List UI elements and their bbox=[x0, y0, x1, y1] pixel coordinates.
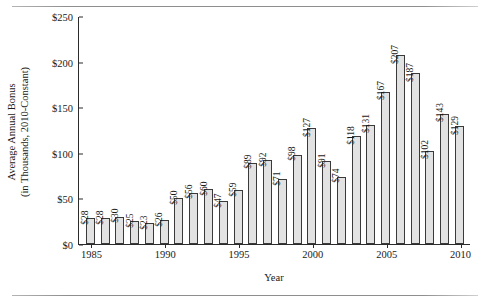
y-axis-tick-label: $200 bbox=[52, 57, 79, 68]
bar-slot: $187 bbox=[408, 17, 423, 244]
bar: $89 bbox=[248, 163, 257, 244]
bar: $71 bbox=[278, 179, 287, 244]
x-axis-tick-label: 2000 bbox=[302, 249, 323, 260]
y-axis-tick-label: $100 bbox=[52, 148, 79, 159]
bar-value-label: $26 bbox=[155, 212, 165, 226]
bar: $59 bbox=[234, 190, 243, 244]
plot-area: $0$50$100$150$200$250 $28$28$30$25$23$26… bbox=[78, 17, 470, 245]
bar-value-label: $56 bbox=[184, 185, 194, 199]
x-axis-tick-label: 1995 bbox=[229, 249, 250, 260]
bar-value-label: $30 bbox=[110, 209, 120, 223]
x-axis-tick-mark bbox=[461, 244, 462, 248]
chart-figure: Average Annual Bonus (in Thousands, 2010… bbox=[0, 0, 490, 302]
x-axis-tick-mark bbox=[313, 244, 314, 248]
bar-value-label: $127 bbox=[302, 118, 312, 137]
bar-slot: $60 bbox=[201, 17, 216, 244]
bar: $143 bbox=[440, 114, 449, 244]
bar-value-label: $74 bbox=[332, 168, 342, 182]
bar-value-label: $187 bbox=[406, 63, 416, 82]
bar-value-label: $47 bbox=[214, 193, 224, 207]
bar: $26 bbox=[160, 220, 169, 244]
bar-slot: $207 bbox=[393, 17, 408, 244]
x-axis-tick-mark bbox=[239, 244, 240, 248]
bar-value-label: $167 bbox=[376, 81, 386, 100]
bar-slot: $30 bbox=[113, 17, 128, 244]
bar: $167 bbox=[381, 92, 390, 244]
bar: $129 bbox=[455, 126, 464, 244]
y-axis-tick-label: $150 bbox=[52, 103, 79, 114]
bar-value-label: $25 bbox=[125, 213, 135, 227]
bar: $74 bbox=[337, 177, 346, 244]
x-axis-tick-label: 2010 bbox=[450, 249, 471, 260]
bar-value-label: $207 bbox=[391, 45, 401, 64]
bar: $56 bbox=[189, 193, 198, 244]
bar-value-label: $28 bbox=[96, 210, 106, 224]
y-axis-tick-mark bbox=[79, 245, 83, 246]
x-axis-tick-mark bbox=[165, 244, 166, 248]
bar: $30 bbox=[115, 217, 124, 244]
bar-value-label: $71 bbox=[273, 171, 283, 185]
bar-slot: $127 bbox=[304, 17, 319, 244]
bar-slot: $47 bbox=[216, 17, 231, 244]
bar-slot: $23 bbox=[142, 17, 157, 244]
bar: $50 bbox=[174, 198, 183, 244]
bar-value-label: $129 bbox=[450, 116, 460, 135]
bar-slot: $26 bbox=[157, 17, 172, 244]
bar-slot: $131 bbox=[364, 17, 379, 244]
bar-value-label: $50 bbox=[169, 190, 179, 204]
bar: $118 bbox=[352, 136, 361, 244]
bar-value-label: $60 bbox=[199, 181, 209, 195]
bar-slot: $92 bbox=[260, 17, 275, 244]
bar-slot: $129 bbox=[452, 17, 467, 244]
bar-slot: $102 bbox=[423, 17, 438, 244]
bar: $28 bbox=[101, 218, 110, 244]
bar-slot: $59 bbox=[231, 17, 246, 244]
bar-value-label: $131 bbox=[361, 114, 371, 133]
bar: $47 bbox=[219, 201, 228, 244]
bar: $207 bbox=[396, 55, 405, 244]
bar-value-label: $102 bbox=[420, 140, 430, 159]
y-axis-title: Average Annual Bonus (in Thousands, 2010… bbox=[2, 16, 34, 248]
bar-value-label: $92 bbox=[258, 152, 268, 166]
bar-slot: $56 bbox=[186, 17, 201, 244]
bar-slot: $25 bbox=[127, 17, 142, 244]
bottom-divider-rule bbox=[12, 295, 478, 296]
bar-value-label: $59 bbox=[229, 182, 239, 196]
top-divider-rule bbox=[12, 6, 478, 7]
bar-value-label: $98 bbox=[288, 147, 298, 161]
bar-value-label: $89 bbox=[243, 155, 253, 169]
bar: $187 bbox=[411, 73, 420, 244]
bar-series: $28$28$30$25$23$26$50$56$60$47$59$89$92$… bbox=[79, 17, 470, 244]
bar-value-label: $91 bbox=[317, 153, 327, 167]
y-axis-tick-label: $250 bbox=[52, 12, 79, 23]
bar-value-label: $118 bbox=[347, 126, 357, 145]
bar: $98 bbox=[293, 155, 302, 244]
y-axis-title-line1: Average Annual Bonus bbox=[5, 67, 18, 197]
bar: $127 bbox=[307, 128, 316, 244]
bar-slot: $89 bbox=[245, 17, 260, 244]
bar-value-label: $28 bbox=[81, 210, 91, 224]
bar-value-label: $23 bbox=[140, 215, 150, 229]
bar: $102 bbox=[425, 151, 434, 244]
x-axis-tick-mark bbox=[91, 244, 92, 248]
bar-slot: $91 bbox=[319, 17, 334, 244]
y-axis-title-line2: (in Thousands, 2010-Constant) bbox=[18, 67, 31, 197]
bar: $131 bbox=[366, 125, 375, 244]
bar-slot: $50 bbox=[172, 17, 187, 244]
y-axis-tick-label: $0 bbox=[63, 240, 80, 251]
x-axis-tick-label: 1985 bbox=[81, 249, 102, 260]
x-axis-tick-label: 1990 bbox=[155, 249, 176, 260]
x-axis-tick-label: 2005 bbox=[376, 249, 397, 260]
x-axis-tick-mark bbox=[387, 244, 388, 248]
bar-slot: $71 bbox=[275, 17, 290, 244]
y-axis-tick-label: $50 bbox=[57, 194, 79, 205]
x-axis-title: Year bbox=[78, 272, 470, 283]
bar-value-label: $143 bbox=[435, 103, 445, 122]
